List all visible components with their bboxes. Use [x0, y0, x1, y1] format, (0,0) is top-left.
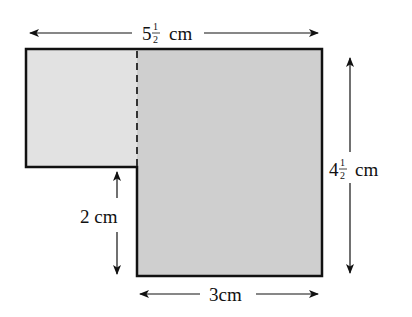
top-width-num: 1 — [153, 21, 158, 32]
right-height-num: 1 — [340, 157, 345, 168]
top-width-whole: 5 — [142, 23, 152, 44]
right-height-den: 2 — [340, 170, 345, 181]
bottom-width-label: 3cm — [209, 284, 242, 305]
right-rectangle-region — [137, 49, 322, 276]
step-height-label: 2 cm — [80, 206, 118, 227]
top-width-unit: cm — [169, 23, 192, 44]
l-shape-diagram: 5 1 2 cm 4 1 2 cm 2 cm 3cm — [0, 0, 412, 317]
top-width-dimension: 5 1 2 cm — [30, 21, 318, 45]
right-height-dimension: 4 1 2 cm — [329, 58, 378, 273]
left-rectangle-region — [26, 49, 137, 167]
step-height-dimension: 2 cm — [80, 172, 118, 274]
right-height-whole: 4 — [329, 159, 339, 180]
top-width-den: 2 — [153, 34, 158, 45]
bottom-width-dimension: 3cm — [140, 284, 318, 305]
right-height-unit: cm — [355, 159, 378, 180]
